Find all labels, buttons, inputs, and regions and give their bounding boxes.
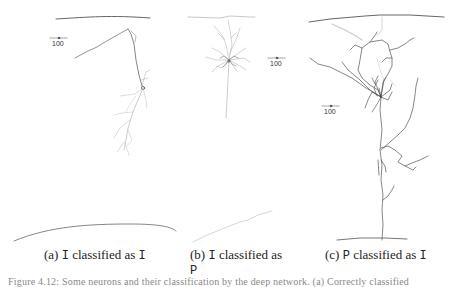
panel-a-scale-bar — [50, 37, 68, 39]
panel-b-scale-label: 100 — [270, 60, 282, 67]
panel-a-predicted-class: I — [139, 249, 146, 263]
panel-c-white-matter — [337, 238, 407, 240]
panel-a-white-matter — [14, 224, 176, 241]
panel-b-pia-surface — [188, 16, 255, 18]
panel-c-morphology — [309, 15, 444, 240]
panel-b-label: (b) — [190, 247, 205, 262]
panel-b-caption: (b) I classified as P — [190, 248, 294, 278]
panel-c-true-class: P — [343, 249, 350, 263]
panel-c-connector: classified as — [353, 247, 416, 262]
panel-c-caption: (c) P classified as I — [325, 248, 427, 263]
panel-a-morphology — [14, 16, 176, 241]
panel-a-connector: classified as — [72, 247, 135, 262]
panel-b-connector: classified as — [219, 247, 282, 262]
panel-b-scale-bar — [268, 57, 285, 59]
panel-b-morphology — [188, 16, 285, 242]
panel-a-label: (a) — [44, 247, 58, 262]
panel-a-caption: (a) I classified as I — [44, 248, 146, 263]
panel-a-scale-label: 100 — [52, 40, 64, 47]
panel-c-pia-surface — [309, 15, 444, 22]
figure-caption: Figure 4.12: Some neurons and their clas… — [8, 276, 409, 287]
panel-b-white-matter — [193, 211, 272, 242]
panel-c-scale-bar — [322, 105, 340, 107]
panel-a-pia-surface — [56, 16, 150, 19]
panel-c-predicted-class: I — [420, 249, 427, 263]
panel-c-scale-label: 100 — [324, 108, 336, 115]
panel-b-true-class: I — [208, 249, 215, 263]
panel-c-label: (c) — [325, 247, 339, 262]
panel-a-true-class: I — [62, 249, 69, 263]
